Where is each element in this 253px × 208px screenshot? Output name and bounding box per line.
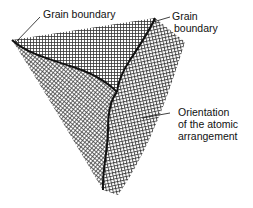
label-grain-boundary-right-1: Grain xyxy=(172,10,198,22)
grain-boundary-diagram: Grain boundary Grain boundary Orientatio… xyxy=(0,0,253,208)
label-grain-boundary-right-2: boundary xyxy=(174,22,219,34)
label-orientation-3: arrangement xyxy=(178,130,238,142)
label-grain-boundary-left: Grain boundary xyxy=(43,8,116,20)
label-orientation-2: of the atomic xyxy=(178,118,238,130)
label-orientation-1: Orientation xyxy=(178,106,230,118)
